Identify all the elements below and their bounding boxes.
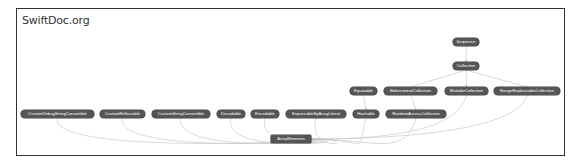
node-range-replaceable-collection[interactable]: RangeReplaceableCollection	[494, 87, 560, 95]
edge-collection-to-mutablecollection	[466, 70, 467, 87]
node-collection[interactable]: Collection	[453, 62, 479, 70]
node-hashable[interactable]: Hashable	[353, 110, 379, 118]
node-mutable-collection[interactable]: MutableCollection	[445, 87, 488, 95]
node-decodable[interactable]: Decodable	[217, 110, 245, 118]
node-random-access-collection[interactable]: RandomAccessCollection	[386, 110, 446, 118]
node-bidirectional-collection[interactable]: BidirectionalCollection	[384, 87, 437, 95]
edge-equatable-to-hashable	[364, 95, 367, 110]
edge-collection-to-bidirectionalcollection	[411, 70, 467, 87]
edge-bidirectionalcollection-to-randomaccesscollection	[411, 95, 417, 110]
node-custom-debug-string-convertible[interactable]: CustomDebugStringConvertible	[21, 110, 94, 118]
node-array-elements[interactable]: ArrayElements	[271, 135, 311, 143]
edge-collection-to-rangereplaceablecollection	[466, 70, 527, 87]
node-custom-reflectable[interactable]: CustomReflectable	[100, 110, 145, 118]
node-expressible-by-array-literal[interactable]: ExpressibleByArrayLiteral	[286, 110, 346, 118]
node-equatable[interactable]: Equatable	[350, 87, 377, 95]
node-custom-string-convertible[interactable]: CustomStringConvertible	[152, 110, 210, 118]
node-encodable[interactable]: Encodable	[251, 110, 279, 118]
node-sequence[interactable]: Sequence	[453, 38, 479, 46]
